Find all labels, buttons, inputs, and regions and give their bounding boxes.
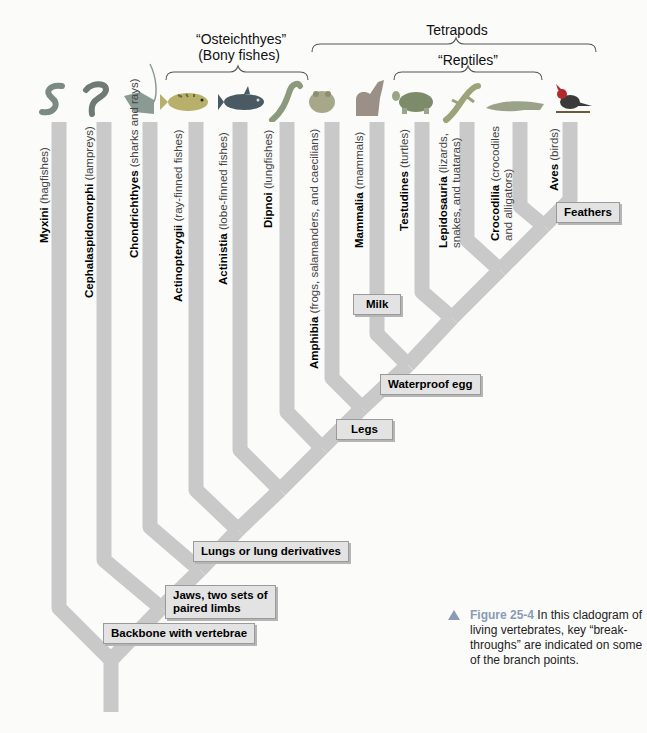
taxon-label-lepidosauria: Lepidosauria (lizards, snakes, and tuata… [437, 133, 462, 248]
turtle-icon [390, 84, 436, 116]
osteichthyes-label: “Osteichthyes” (Bony fishes) [196, 31, 282, 63]
wolf-icon [350, 76, 388, 120]
trait-backbone: Backbone with vertebrae [103, 623, 255, 644]
lizard-icon [440, 80, 482, 124]
perch-icon [160, 88, 214, 116]
taxon-label-actinopterygii: Actinopterygii (ray-finned fishes) [172, 129, 185, 302]
trait-lungs: Lungs or lung derivatives [193, 541, 349, 562]
crocodile-icon [484, 92, 546, 116]
taxon-label-myxini: Myxini (hagfishes) [38, 147, 51, 243]
taxon-label-aves: Aves (birds) [548, 128, 561, 191]
taxon-label-testudines: Testudines (turtles) [398, 129, 411, 231]
taxon-label-dipnoi: Dipnoi (lungfishes) [262, 130, 275, 228]
trait-legs: Legs [336, 419, 393, 440]
taxon-label-crocodilia: Crocodilia (crocodiles and alligators) [489, 126, 514, 241]
trait-feathers: Feathers [556, 202, 620, 223]
taxon-label-actinistia: Actinistia (lobe-finned fishes) [217, 132, 230, 285]
lungfish-icon [268, 80, 304, 122]
figure-number: Figure 25-4 [470, 608, 534, 622]
osteichthyes-common: (Bony fishes) [196, 47, 282, 63]
triangle-marker-icon [448, 610, 460, 620]
coelacanth-icon [218, 86, 270, 116]
taxon-label-amphibia: Amphibia (frogs, salamanders, and caecil… [308, 129, 321, 369]
lamprey-icon [80, 80, 116, 118]
frog-icon [306, 84, 338, 118]
taxon-label-cephalaspidomorphi: Cephalaspidomorphi (lampreys) [83, 126, 96, 298]
trait-milk: Milk [353, 294, 401, 315]
tetrapods-label: Tetrapods [425, 22, 489, 38]
trait-jaws: Jaws, two sets of paired limbs [165, 585, 276, 619]
taxon-label-chondrichthyes: Chondrichthyes (sharks and rays) [128, 78, 141, 258]
cardinal-bird-icon [552, 84, 594, 118]
reptiles-label: “Reptiles” [436, 52, 500, 68]
figure-caption: Figure 25-4 In this cladogram of living … [470, 608, 645, 668]
hagfish-icon [36, 82, 72, 118]
trait-waterproof-egg: Waterproof egg [380, 374, 481, 395]
taxon-label-mammalia: Mammalia (mammals) [353, 132, 366, 248]
osteichthyes-name: “Osteichthyes” [196, 31, 282, 47]
